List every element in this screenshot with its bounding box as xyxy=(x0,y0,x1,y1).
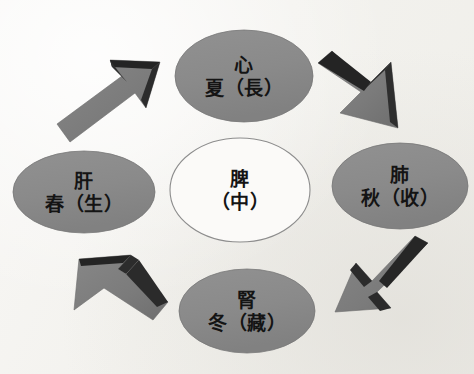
arrow-lung-to-kidney xyxy=(335,236,428,312)
node-spleen-center[interactable] xyxy=(170,138,310,242)
node-kidney[interactable] xyxy=(179,269,315,353)
five-phase-cycle-diagram xyxy=(0,0,474,374)
arrow-liver-to-heart xyxy=(57,60,160,142)
node-liver[interactable] xyxy=(13,151,155,233)
diagram-page: 心 夏（長） 肺 秋（收） 腎 冬（藏） 肝 春（生） 脾 （中） xyxy=(0,0,474,374)
node-heart[interactable] xyxy=(175,30,313,122)
arrow-kidney-to-liver xyxy=(74,255,168,320)
arrow-heart-to-lung xyxy=(318,51,398,128)
node-lung[interactable] xyxy=(332,143,468,229)
